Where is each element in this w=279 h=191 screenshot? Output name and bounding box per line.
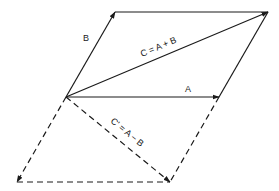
label-c-prime-diff: C' = A − B [109, 116, 146, 149]
vector-diagram: B C = A + B A C' = A − B [0, 0, 279, 191]
label-a: A [185, 84, 191, 94]
label-c-sum: C = A + B [139, 35, 178, 59]
vector-c-prime-diff [66, 97, 170, 182]
label-b: B [83, 33, 89, 43]
right-edge-upper [219, 12, 268, 97]
vector-neg-b [17, 97, 66, 182]
right-edge-lower [170, 97, 219, 182]
vector-b [66, 12, 115, 97]
vector-c-sum [66, 12, 268, 97]
